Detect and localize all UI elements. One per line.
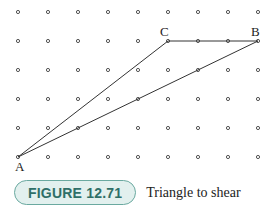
grid-dot — [76, 39, 79, 42]
grid-dot — [136, 39, 139, 42]
grid-dot — [226, 68, 229, 71]
grid-dot — [16, 10, 19, 13]
grid-dot — [256, 10, 259, 13]
grid-dot — [256, 126, 259, 129]
grid-dot — [196, 126, 199, 129]
triangle-abc — [18, 41, 258, 157]
grid-dot — [136, 68, 139, 71]
grid-dot — [16, 97, 19, 100]
grid-dot — [226, 155, 229, 158]
grid-dot — [136, 155, 139, 158]
grid-dot — [196, 10, 199, 13]
grid-dot — [106, 10, 109, 13]
grid-dot — [166, 126, 169, 129]
grid-dot — [226, 126, 229, 129]
vertex-label-c: C — [160, 24, 169, 39]
grid-dot — [166, 10, 169, 13]
grid-dot — [166, 97, 169, 100]
grid-dot — [16, 68, 19, 71]
grid-dot — [226, 97, 229, 100]
grid-dot — [16, 39, 19, 42]
figure-number-badge: FIGURE 12.71 — [14, 180, 136, 205]
caption-text: Triangle to shear — [146, 185, 240, 201]
grid-dot — [16, 126, 19, 129]
vertex-label-a: A — [15, 159, 25, 174]
grid-dot — [106, 97, 109, 100]
grid-dot — [106, 68, 109, 71]
grid-dot — [106, 155, 109, 158]
vertex-label-b: B — [251, 24, 260, 39]
grid-dot — [196, 97, 199, 100]
grid-dot — [166, 155, 169, 158]
grid-dot — [136, 10, 139, 13]
grid-dot — [46, 126, 49, 129]
grid-dot — [196, 155, 199, 158]
triangle-outline — [18, 41, 258, 157]
grid-dot — [256, 68, 259, 71]
grid-dot — [76, 97, 79, 100]
grid-dot — [256, 155, 259, 158]
grid-dots — [16, 10, 259, 158]
figure-caption: FIGURE 12.71 Triangle to shear — [14, 179, 241, 206]
grid-dot — [76, 10, 79, 13]
grid-dot — [46, 97, 49, 100]
grid-dot — [166, 68, 169, 71]
grid-dot — [76, 155, 79, 158]
grid-dot — [136, 126, 139, 129]
grid-dot — [46, 10, 49, 13]
grid-dot — [76, 68, 79, 71]
grid-dot — [226, 10, 229, 13]
grid-dot — [106, 126, 109, 129]
dot-grid-figure: ABC — [0, 0, 277, 175]
grid-dot — [106, 39, 109, 42]
grid-dot — [46, 68, 49, 71]
grid-dot — [256, 97, 259, 100]
grid-dot — [46, 39, 49, 42]
grid-dot — [46, 155, 49, 158]
